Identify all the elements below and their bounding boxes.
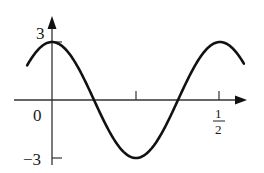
y-axis-arrow-icon [48,16,57,29]
x-label-half-numerator: 1 [215,106,222,121]
origin-label: 0 [33,106,42,125]
x-label-half-denominator: 2 [215,122,222,137]
y-label-neg3: −3 [23,150,41,169]
x-axis-arrow-icon [235,96,247,105]
cosine-chart: 3 0 −3 1 2 [0,0,264,173]
y-label-3: 3 [36,24,45,43]
